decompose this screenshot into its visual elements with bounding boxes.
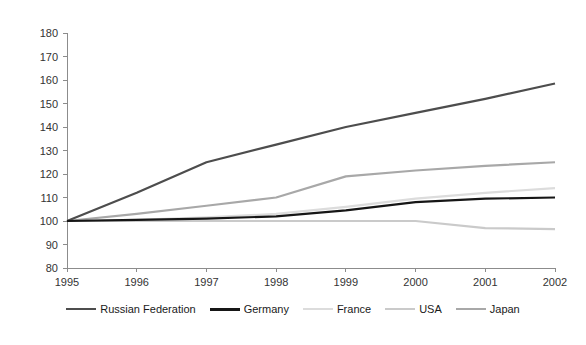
x-tick-label: 2002 — [543, 276, 567, 288]
legend-entry[interactable]: Japan — [456, 303, 520, 315]
y-tick-label: 120 — [40, 168, 58, 180]
x-tick-label: 1996 — [124, 276, 148, 288]
legend-swatch — [303, 308, 333, 310]
legend-label: Japan — [490, 303, 520, 315]
legend-swatch — [210, 308, 240, 311]
chart-legend: Russian FederationGermanyFranceUSAJapan — [0, 303, 586, 315]
y-tick-label: 110 — [40, 192, 58, 204]
series-line-usa — [67, 221, 555, 229]
x-axis-tick-marks — [67, 268, 555, 272]
plot-area: 8090100110120130140150160170180 19951996… — [0, 0, 586, 345]
x-axis-tick-labels: 19951996199719981999200020012002 — [55, 276, 567, 288]
series-line-russian-federation — [67, 84, 555, 221]
legend-entry[interactable]: France — [303, 303, 371, 315]
legend-entry[interactable]: USA — [385, 303, 442, 315]
x-tick-label: 2001 — [473, 276, 497, 288]
y-tick-label: 90 — [46, 239, 58, 251]
legend-entry[interactable]: Germany — [210, 303, 289, 315]
x-tick-label: 1995 — [55, 276, 79, 288]
y-tick-label: 180 — [40, 27, 58, 39]
y-tick-label: 170 — [40, 51, 58, 63]
legend-label: USA — [419, 303, 442, 315]
legend-swatch — [385, 308, 415, 310]
series-line-france — [67, 188, 555, 221]
y-tick-label: 130 — [40, 145, 58, 157]
series-line-germany — [67, 198, 555, 222]
legend-swatch — [456, 308, 486, 310]
y-tick-label: 140 — [40, 121, 58, 133]
x-tick-label: 1999 — [334, 276, 358, 288]
y-tick-label: 100 — [40, 215, 58, 227]
y-tick-label: 160 — [40, 74, 58, 86]
legend-entry[interactable]: Russian Federation — [66, 303, 195, 315]
line-chart: 8090100110120130140150160170180 19951996… — [0, 0, 586, 345]
x-tick-label: 1997 — [194, 276, 218, 288]
legend-label: France — [337, 303, 371, 315]
x-tick-label: 2000 — [403, 276, 427, 288]
y-axis-tick-labels: 8090100110120130140150160170180 — [40, 27, 58, 274]
y-tick-label: 150 — [40, 98, 58, 110]
y-axis-tick-marks — [63, 33, 67, 268]
legend-label: Germany — [244, 303, 289, 315]
series-lines — [67, 84, 555, 230]
x-tick-label: 1998 — [264, 276, 288, 288]
y-tick-label: 80 — [46, 262, 58, 274]
legend-label: Russian Federation — [100, 303, 195, 315]
legend-swatch — [66, 308, 96, 310]
